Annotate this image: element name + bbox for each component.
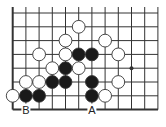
black-stone: [59, 76, 72, 89]
black-stone: [59, 62, 72, 75]
go-board-diagram: BA: [0, 0, 166, 127]
white-stone: [72, 62, 85, 75]
white-stone: [20, 76, 33, 89]
white-stone: [59, 48, 72, 61]
white-stone: [33, 48, 46, 61]
white-stone: [6, 89, 19, 102]
black-stone: [33, 89, 46, 102]
white-stone: [112, 48, 125, 61]
star-points: [130, 66, 134, 70]
black-stone: [20, 89, 33, 102]
point-label-b: B: [22, 104, 29, 116]
point-label-a: A: [88, 104, 96, 116]
black-stone: [86, 48, 99, 61]
white-stone: [72, 20, 85, 33]
white-stone: [99, 89, 112, 102]
black-stone: [46, 76, 59, 89]
black-stone: [86, 76, 99, 89]
white-stone: [59, 34, 72, 47]
black-stone: [72, 48, 85, 61]
white-stone: [112, 76, 125, 89]
star-point: [130, 66, 134, 70]
white-stone: [46, 62, 59, 75]
white-stone: [33, 76, 46, 89]
white-stone: [99, 34, 112, 47]
black-stone: [86, 89, 99, 102]
